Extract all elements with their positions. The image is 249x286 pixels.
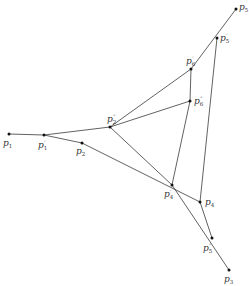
point-p6p — [190, 68, 193, 71]
point-p6pp — [189, 100, 192, 103]
segment-p6p-p6pp — [190, 69, 191, 101]
label-prime: ″ — [209, 242, 211, 249]
label-p2pp: p2″ — [107, 114, 116, 126]
label-subscript: 1 — [9, 143, 13, 149]
point-p5p — [216, 37, 219, 40]
point-p3 — [228, 269, 231, 272]
label-prime: ″ — [113, 113, 115, 120]
segment-p2pp-p6p — [110, 69, 191, 127]
point-p2 — [81, 142, 84, 145]
label-subscript: 5 — [245, 7, 249, 13]
point-p4 — [199, 201, 202, 204]
label-p2: p2 — [76, 147, 85, 158]
segment-p2pp-p6pp — [110, 101, 190, 127]
label-p5: p5 — [239, 3, 248, 14]
segment-p1p-p2 — [44, 135, 82, 143]
point-p5 — [235, 8, 238, 11]
label-prime: ″ — [200, 95, 202, 102]
segment-p1-p1p — [9, 134, 44, 135]
segment-p6pp-p4p — [172, 101, 190, 185]
label-prime: ′ — [170, 188, 171, 195]
label-prime: ′ — [192, 55, 193, 62]
label-p5pp: p5″ — [203, 243, 212, 255]
point-p2pp — [109, 126, 112, 129]
label-p1p: p1′ — [38, 140, 46, 152]
segment-p5p-p4 — [200, 38, 217, 202]
point-p1p — [43, 134, 46, 137]
point-p1 — [8, 133, 11, 136]
segment-p2pp-p4p — [110, 127, 172, 185]
label-p4p: p4′ — [164, 189, 172, 201]
label-p4: p4 — [205, 198, 214, 209]
segment-p1p-p2pp — [44, 127, 110, 135]
point-p5pp — [211, 237, 214, 240]
label-prime: ′ — [44, 139, 45, 146]
label-subscript: 4 — [211, 202, 215, 208]
label-p6p: p6′ — [186, 56, 194, 68]
label-p1: p1 — [3, 139, 12, 150]
label-p5p: p5′ — [220, 33, 228, 45]
label-subscript: 2 — [82, 151, 86, 157]
label-p3: p3 — [224, 275, 233, 286]
label-subscript: 3 — [230, 279, 234, 285]
diagram-canvas: p5p5′p6′p6″p2″p1p1′p2p4′p4p5″p3 — [0, 0, 249, 286]
point-p4p — [171, 184, 174, 187]
segment-p2-p4 — [82, 143, 200, 202]
label-p6pp: p6″ — [194, 96, 203, 108]
label-prime: ′ — [226, 32, 227, 39]
